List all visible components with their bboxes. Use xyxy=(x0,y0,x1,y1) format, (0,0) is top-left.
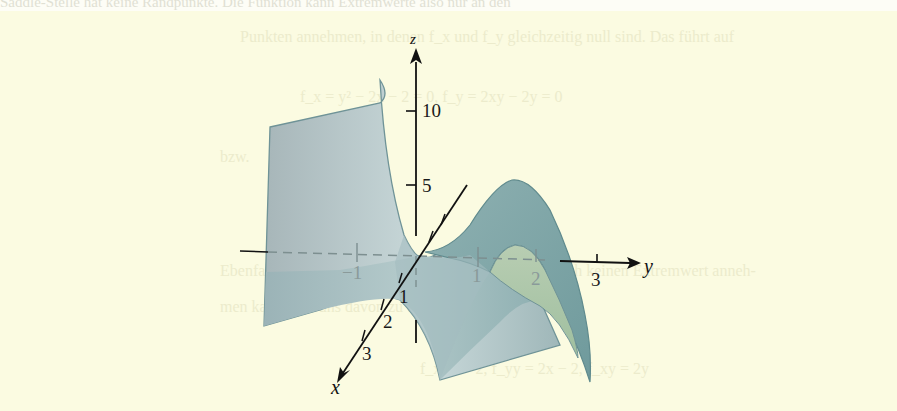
y-tick-neg1: −1 xyxy=(342,262,362,283)
x-axis-label: x xyxy=(330,376,340,398)
surface-plot: z 10 5 −1 1 2 3 y 1 2 3 x xyxy=(0,0,897,411)
y-axis-left-segment xyxy=(240,251,268,252)
y-axis-label: y xyxy=(642,255,653,278)
z-tick-5: 5 xyxy=(422,175,432,196)
z-axis-label: z xyxy=(409,31,416,47)
y-tick-3: 3 xyxy=(591,269,601,290)
x-tick-2: 2 xyxy=(383,311,393,332)
z-tick-10: 10 xyxy=(422,100,441,121)
x-tick-1: 1 xyxy=(399,286,409,307)
y-tick-1: 1 xyxy=(472,265,482,286)
x-tick-3: 3 xyxy=(362,343,372,364)
z-axis-arrow-icon xyxy=(410,48,422,64)
y-tick-2: 2 xyxy=(531,268,541,289)
